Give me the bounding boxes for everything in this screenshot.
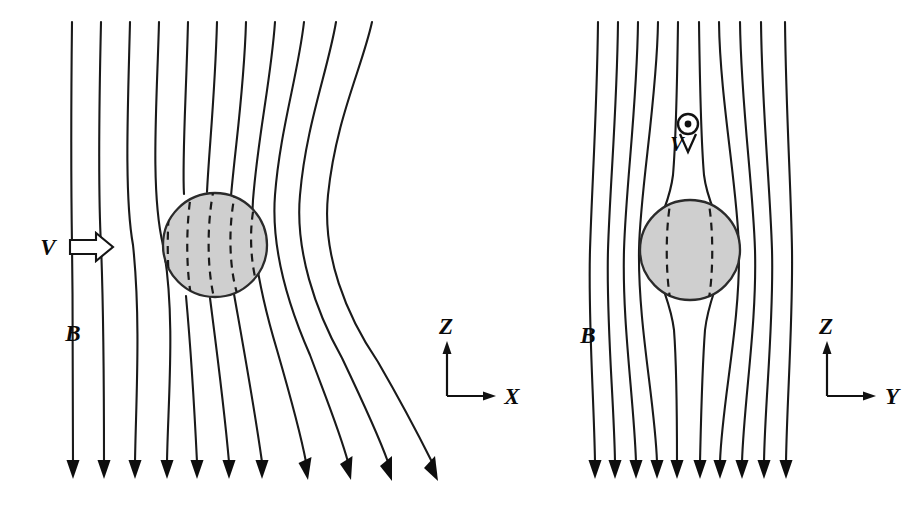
magnetic-field-diagram: V B Z X xyxy=(0,0,922,513)
diagram-background xyxy=(0,0,922,513)
velocity-out-of-page-dot xyxy=(685,121,692,128)
sphere-right-body xyxy=(640,200,740,300)
left-axis-x-label: X xyxy=(503,384,520,409)
figure-root: V B Z X xyxy=(0,0,922,513)
left-axis-z-label: Z xyxy=(438,314,453,339)
right-axis-z-label: Z xyxy=(818,314,833,339)
right-axis-y-label: Y xyxy=(885,384,901,409)
left-field-label: B xyxy=(64,321,80,346)
right-velocity-label: V xyxy=(670,133,685,155)
left-velocity-label: V xyxy=(40,235,57,260)
right-field-label: B xyxy=(579,323,595,348)
